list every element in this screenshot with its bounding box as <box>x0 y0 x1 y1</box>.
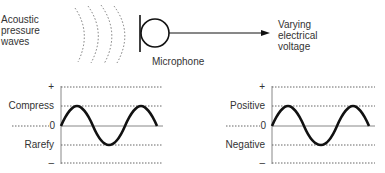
microphone-icon <box>140 15 169 52</box>
right-minus-label: – <box>259 157 265 168</box>
negative-label: Negative <box>226 139 265 150</box>
right-waveform-chart <box>226 86 375 164</box>
voltage-label: Varying electrical voltage <box>278 19 317 52</box>
diagram-canvas <box>0 0 385 173</box>
left-zero-label: 0 <box>49 120 55 131</box>
left-plus-label: + <box>48 81 54 92</box>
left-minus-label: – <box>48 157 54 168</box>
positive-label: Positive <box>230 100 265 111</box>
arrow-icon <box>169 30 270 36</box>
left-waveform-chart <box>12 86 163 164</box>
compress-label: Compress <box>8 100 54 111</box>
sound-wave-arcs <box>75 5 125 64</box>
right-plus-label: + <box>259 81 265 92</box>
acoustic-waves-label: Acoustic pressure waves <box>1 14 40 47</box>
right-zero-label: 0 <box>260 120 266 131</box>
rarefy-label: Rarefy <box>25 139 54 150</box>
microphone-label: Microphone <box>152 56 204 67</box>
